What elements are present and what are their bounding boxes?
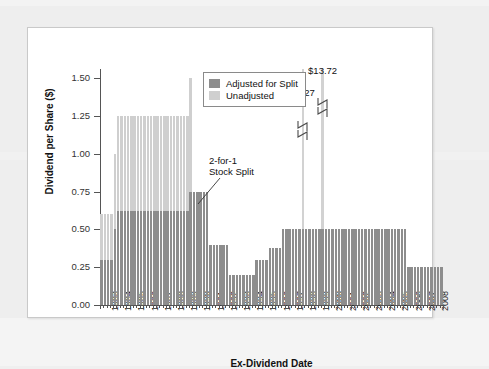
x-tick-mark	[169, 305, 170, 308]
x-tick-mark	[107, 305, 108, 308]
bar-adjusted	[176, 211, 178, 305]
x-tick-mark	[291, 305, 292, 308]
x-tick-mark	[235, 305, 236, 308]
bar-adjusted	[341, 229, 343, 305]
bar-adjusted	[305, 229, 307, 305]
x-tick-mark	[186, 305, 187, 308]
x-tick-mark	[314, 305, 315, 308]
x-tick-mark	[196, 305, 197, 308]
x-tick-mark	[212, 305, 213, 308]
x-tick-mark	[133, 305, 134, 308]
y-tick-label: 0.50	[50, 223, 90, 234]
bar-adjusted	[361, 229, 363, 305]
bar-adjusted	[120, 211, 122, 305]
x-tick-mark	[301, 305, 302, 308]
bar-adjusted	[282, 229, 284, 305]
x-tick-mark	[199, 305, 200, 308]
x-tick-mark	[407, 305, 408, 308]
bar-adjusted	[344, 229, 346, 305]
x-tick-mark	[146, 305, 147, 308]
x-tick-mark	[248, 305, 249, 308]
x-tick-mark	[285, 305, 286, 309]
x-tick-mark	[397, 305, 398, 308]
bar-adjusted	[420, 267, 422, 305]
y-axis-title: Dividend per Share ($)	[44, 62, 55, 222]
bar-adjusted	[229, 275, 231, 305]
bar-adjusted	[173, 211, 175, 305]
bar-adjusted	[242, 275, 244, 305]
bar-adjusted	[147, 211, 149, 305]
x-tick-mark	[140, 305, 141, 309]
x-tick-mark	[245, 305, 246, 309]
bar-adjusted	[183, 211, 185, 305]
bar-adjusted	[368, 229, 370, 305]
bar-adjusted	[430, 267, 432, 305]
annotation-line-1: 2-for-1	[209, 155, 254, 166]
bar-adjusted	[387, 229, 389, 305]
bar-adjusted	[189, 192, 191, 305]
bar-adjusted	[354, 229, 356, 305]
bar-adjusted	[255, 260, 257, 305]
bar-adjusted	[117, 211, 119, 305]
bar-adjusted	[232, 275, 234, 305]
y-tick-label: 1.50	[50, 72, 90, 83]
bar-adjusted	[308, 229, 310, 305]
x-tick-mark	[219, 305, 220, 309]
bar-adjusted	[269, 248, 271, 305]
special-dividend-label: $13.72	[301, 65, 345, 76]
bar-adjusted	[292, 229, 294, 305]
bar-adjusted	[364, 229, 366, 305]
x-tick-mark	[354, 305, 355, 308]
bar-adjusted	[417, 267, 419, 305]
x-tick-mark	[143, 305, 144, 308]
bar-adjusted	[404, 229, 406, 305]
bar-adjusted	[410, 267, 412, 305]
x-tick-mark	[206, 305, 207, 309]
bar-adjusted	[209, 245, 211, 305]
bar-adjusted	[262, 260, 264, 305]
legend-item-unadjusted: Unadjusted	[209, 90, 298, 101]
x-tick-mark	[311, 305, 312, 309]
bar-adjusted	[143, 211, 145, 305]
legend-label-adjusted: Adjusted for Split	[226, 78, 298, 89]
x-tick-mark	[304, 305, 305, 308]
bar-adjusted	[246, 275, 248, 305]
x-tick-mark	[232, 305, 233, 309]
x-tick-mark	[377, 305, 378, 309]
x-tick-mark	[222, 305, 223, 308]
bar-adjusted	[394, 229, 396, 305]
x-tick-mark	[341, 305, 342, 308]
bar-adjusted	[160, 211, 162, 305]
x-tick-mark	[337, 305, 338, 309]
bar-adjusted	[249, 275, 251, 305]
legend-swatch-adjusted	[209, 79, 220, 88]
y-tick-label: 1.00	[50, 148, 90, 159]
bar-adjusted	[335, 229, 337, 305]
x-tick-mark	[420, 305, 421, 308]
x-tick-mark	[153, 305, 154, 309]
x-tick-mark	[272, 305, 273, 309]
bar-adjusted	[130, 211, 132, 305]
x-tick-mark	[436, 305, 437, 308]
bar-adjusted	[318, 229, 320, 305]
bar-adjusted	[156, 211, 158, 305]
bar-adjusted	[275, 248, 277, 305]
bar-adjusted	[186, 211, 188, 305]
bar-adjusted	[348, 229, 350, 305]
bar-adjusted	[331, 229, 333, 305]
bar-adjusted	[180, 211, 182, 305]
bar-adjusted	[127, 211, 129, 305]
bar-adjusted	[302, 229, 304, 305]
x-tick-mark	[156, 305, 157, 308]
x-tick-mark	[380, 305, 381, 308]
x-axis-title: Ex-Dividend Date	[100, 358, 443, 369]
bar-adjusted	[252, 275, 254, 305]
y-tick-label: 1.25	[50, 110, 90, 121]
bar-adjusted	[371, 229, 373, 305]
bar-adjusted	[351, 229, 353, 305]
bar-adjusted	[424, 267, 426, 305]
bar-adjusted	[137, 211, 139, 305]
bar-adjusted	[104, 260, 106, 305]
bar-adjusted	[440, 267, 442, 305]
bar-adjusted	[328, 229, 330, 305]
